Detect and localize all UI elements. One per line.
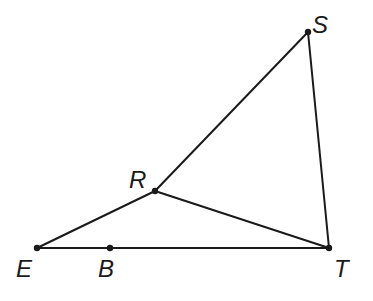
segment-st bbox=[308, 32, 329, 248]
point-s bbox=[305, 29, 311, 35]
segment-rs bbox=[155, 32, 308, 191]
diagram-svg: SREBT bbox=[0, 0, 373, 301]
label-s: S bbox=[312, 11, 328, 38]
point-r bbox=[152, 188, 158, 194]
label-e: E bbox=[16, 255, 33, 282]
label-t: T bbox=[334, 255, 351, 282]
segment-er bbox=[37, 191, 155, 248]
point-e bbox=[34, 245, 40, 251]
point-b bbox=[107, 245, 113, 251]
label-r: R bbox=[129, 166, 146, 193]
label-b: B bbox=[98, 255, 114, 282]
segment-rt bbox=[155, 191, 329, 248]
geometry-diagram: SREBT bbox=[0, 0, 373, 301]
point-t bbox=[326, 245, 332, 251]
